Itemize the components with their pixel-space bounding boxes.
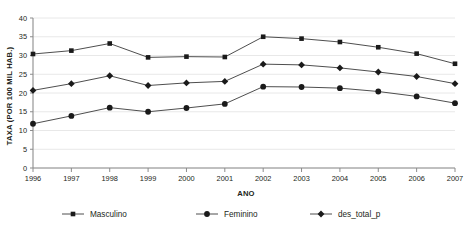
data-point-square (453, 61, 458, 66)
data-point-diamond (106, 72, 113, 79)
data-point-circle (337, 85, 343, 91)
data-point-square (299, 36, 304, 41)
line-chart: 0510152025303540 19961997199819992000200… (0, 0, 465, 229)
x-tick-label: 2001 (217, 174, 233, 183)
data-point-diamond (337, 64, 344, 71)
data-point-circle (414, 93, 420, 99)
legend-label: Feminino (224, 210, 258, 219)
y-tick-labels: 0510152025303540 (19, 14, 27, 173)
data-point-square (223, 55, 228, 60)
data-point-square (71, 212, 76, 217)
y-tick-label: 20 (19, 89, 27, 98)
data-point-circle (30, 121, 36, 127)
data-point-square (376, 45, 381, 50)
x-tick-label: 2004 (332, 174, 348, 183)
x-tick-label: 1997 (63, 174, 79, 183)
data-point-square (261, 34, 266, 39)
data-point-square (146, 55, 151, 60)
legend-label: Masculino (90, 210, 127, 219)
x-tick-label: 2000 (178, 174, 194, 183)
legend-item-des_total_p[interactable]: des_total_p (310, 210, 381, 219)
x-tick-labels: 1996199719981999200020012002200320042005… (25, 174, 463, 183)
data-point-diamond (260, 61, 267, 68)
x-tick-label: 2007 (447, 174, 463, 183)
y-tick-label: 15 (19, 107, 27, 116)
legend-item-Masculino[interactable]: Masculino (62, 210, 127, 219)
x-tick-label: 2002 (255, 174, 271, 183)
data-point-circle (204, 211, 210, 217)
y-tick-label: 30 (19, 51, 27, 60)
series-des_total_p (30, 61, 459, 94)
data-point-circle (375, 89, 381, 95)
y-tick-label: 5 (23, 145, 27, 154)
series-Feminino (30, 84, 458, 127)
data-point-circle (145, 109, 151, 115)
data-point-circle (222, 101, 228, 107)
data-point-square (31, 52, 36, 57)
legend: MasculinoFemininodes_total_p (62, 210, 381, 219)
data-point-diamond (68, 80, 75, 87)
series-Masculino (31, 34, 458, 66)
legend-item-Feminino[interactable]: Feminino (196, 210, 258, 219)
data-point-diamond (183, 79, 190, 86)
data-point-circle (68, 113, 74, 119)
series-group (30, 34, 459, 126)
data-point-diamond (318, 211, 325, 218)
y-axis-title: TAXA (POR 100 MIL HAB.) (5, 46, 14, 145)
x-tick-label: 2003 (293, 174, 309, 183)
data-point-square (338, 40, 343, 45)
data-point-diamond (298, 61, 305, 68)
data-point-circle (452, 100, 458, 106)
data-point-circle (260, 84, 266, 90)
y-tick-label: 35 (19, 32, 27, 41)
data-point-diamond (221, 78, 228, 85)
data-point-square (107, 41, 112, 46)
data-point-diamond (452, 80, 459, 87)
y-tick-label: 10 (19, 126, 27, 135)
x-tick-label: 1998 (102, 174, 118, 183)
y-tick-label: 40 (19, 14, 27, 23)
x-tick-label: 2006 (408, 174, 424, 183)
data-point-diamond (145, 82, 152, 89)
data-point-circle (184, 105, 190, 111)
data-point-circle (299, 84, 305, 90)
data-point-square (184, 54, 189, 59)
data-point-square (414, 51, 419, 56)
data-point-circle (107, 105, 113, 111)
x-axis-title: ANO (237, 189, 254, 198)
x-tick-label: 2005 (370, 174, 386, 183)
legend-label: des_total_p (338, 210, 381, 219)
chart-container: 0510152025303540 19961997199819992000200… (0, 0, 465, 229)
x-tick-label: 1996 (25, 174, 41, 183)
y-tick-label: 25 (19, 70, 27, 79)
x-tick-label: 1999 (140, 174, 156, 183)
y-tick-label: 0 (23, 164, 27, 173)
data-point-square (69, 48, 74, 53)
